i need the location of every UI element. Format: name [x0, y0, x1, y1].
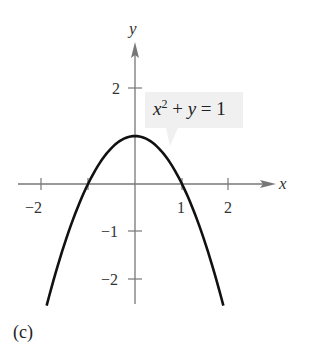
- x-tick-label: −2: [25, 199, 42, 216]
- equation-rest: + y = 1: [172, 98, 226, 119]
- equation-label-pointer: [166, 128, 178, 146]
- equation-exponent: 2: [161, 97, 167, 111]
- panel-label: (c): [13, 322, 33, 343]
- graph-canvas: −2 1 2 2 −1 −2 y x: [0, 0, 309, 349]
- x-tick-label: 1: [177, 199, 185, 216]
- x-axis-label: x: [278, 174, 287, 193]
- y-tick-label: −1: [101, 223, 118, 240]
- y-tick-label: 2: [112, 80, 120, 97]
- y-axis-label: y: [127, 19, 137, 38]
- equation-label: x2 + y = 1: [153, 97, 226, 120]
- y-tick-label: −2: [101, 271, 118, 288]
- x-tick-label: 2: [224, 199, 232, 216]
